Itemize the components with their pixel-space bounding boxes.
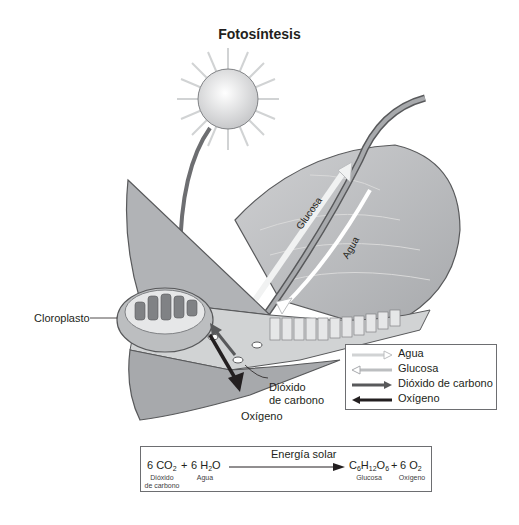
legend-label: Dióxido de carbono — [398, 377, 493, 389]
legend-item-glucose: Glucosa — [346, 362, 496, 377]
solid-arrow-right-icon — [352, 380, 394, 390]
equation-product-oxygen: 6 O2 — [400, 459, 422, 472]
solid-arrow-left-icon — [352, 395, 394, 405]
equation-name-co2-2: de carbono — [144, 482, 180, 489]
equation-name-water: Agua — [193, 474, 217, 481]
legend-item-co2: Dióxido de carbono — [346, 377, 496, 392]
chloroplast-icon — [117, 288, 213, 352]
legend: Agua Glucosa Dióxido de carbono Oxígeno — [345, 344, 497, 410]
legend-label: Glucosa — [398, 362, 438, 374]
chloroplast-label: Cloroplasto — [34, 312, 90, 324]
legend-label: Agua — [398, 347, 424, 359]
equation-product-glucose: C6H12O6 — [349, 459, 389, 472]
co2-label-line1: Dióxido — [269, 381, 306, 393]
legend-item-oxygen: Oxígeno — [346, 392, 496, 407]
reaction-arrow-icon — [229, 463, 345, 471]
sun-icon — [177, 48, 279, 150]
equation-arrow-label: Energía solar — [271, 448, 336, 460]
co2-label-line2: de carbono — [269, 394, 324, 406]
hollow-arrow-right-icon — [352, 350, 394, 360]
equation-name-glucose: Glucosa — [353, 474, 385, 481]
photosynthesis-equation: 6 CO2 + 6 H2O Energía solar C6H12O6 + 6 … — [140, 446, 432, 492]
equation-plus: + — [391, 459, 397, 471]
equation-plus: + — [181, 459, 187, 471]
oxygen-label: Oxígeno — [241, 410, 283, 422]
hollow-arrow-left-icon — [352, 365, 394, 375]
equation-reactant-co2: 6 CO2 — [147, 459, 177, 472]
legend-label: Oxígeno — [398, 392, 440, 404]
equation-reactant-water: 6 H2O — [191, 459, 221, 472]
equation-name-oxygen: Oxígeno — [397, 474, 427, 481]
legend-item-water: Agua — [346, 347, 496, 362]
equation-name-co2-1: Dióxido — [147, 474, 177, 481]
